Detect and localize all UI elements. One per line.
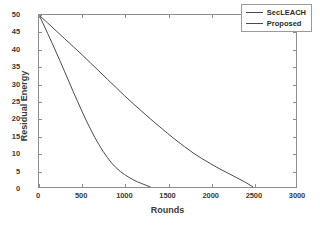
y-tick-mark bbox=[293, 172, 296, 173]
y-tick-label: 15 bbox=[0, 131, 20, 140]
y-tick-mark bbox=[39, 154, 42, 155]
y-tick-mark bbox=[293, 137, 296, 138]
x-tick-mark bbox=[169, 15, 170, 18]
x-tick-mark bbox=[169, 184, 170, 187]
y-tick-label: 50 bbox=[0, 10, 20, 19]
legend-label-proposed: Proposed bbox=[267, 19, 302, 28]
y-tick-mark bbox=[39, 102, 42, 103]
y-tick-label: 40 bbox=[0, 44, 20, 53]
y-tick-label: 5 bbox=[0, 166, 20, 175]
y-tick-mark bbox=[293, 102, 296, 103]
x-tick-label: 1000 bbox=[116, 191, 132, 200]
x-tick-mark bbox=[82, 184, 83, 187]
x-tick-mark bbox=[212, 184, 213, 187]
y-tick-label: 45 bbox=[0, 27, 20, 36]
x-axis-title: Rounds bbox=[38, 205, 297, 215]
y-tick-mark bbox=[293, 154, 296, 155]
legend-swatch-secleach bbox=[246, 12, 263, 13]
plot-area bbox=[38, 14, 297, 188]
x-tick-label: 2000 bbox=[203, 191, 219, 200]
chart-figure: 0510152025303540455005001000150020002500… bbox=[0, 0, 320, 229]
y-tick-label: 0 bbox=[0, 184, 20, 193]
x-tick-mark bbox=[212, 15, 213, 18]
y-tick-label: 30 bbox=[0, 79, 20, 88]
y-tick-label: 10 bbox=[0, 149, 20, 158]
plot-svg bbox=[39, 15, 296, 187]
series-line-proposed bbox=[39, 15, 253, 187]
y-tick-mark bbox=[293, 119, 296, 120]
x-tick-label: 2500 bbox=[246, 191, 262, 200]
x-tick-label: 3000 bbox=[289, 191, 305, 200]
series-line-secleach bbox=[39, 15, 150, 187]
y-tick-mark bbox=[293, 50, 296, 51]
y-tick-label: 20 bbox=[0, 114, 20, 123]
x-tick-mark bbox=[39, 15, 40, 18]
y-tick-mark bbox=[39, 119, 42, 120]
x-tick-label: 1500 bbox=[159, 191, 175, 200]
legend-label-secleach: SecLEACH bbox=[267, 8, 306, 17]
legend-item-proposed: Proposed bbox=[246, 19, 306, 28]
x-tick-label: 0 bbox=[36, 191, 40, 200]
x-tick-mark bbox=[82, 15, 83, 18]
y-tick-label: 35 bbox=[0, 62, 20, 71]
x-tick-label: 500 bbox=[75, 191, 87, 200]
y-tick-mark bbox=[293, 85, 296, 86]
y-tick-mark bbox=[293, 32, 296, 33]
y-tick-mark bbox=[39, 85, 42, 86]
y-tick-mark bbox=[39, 67, 42, 68]
chart-legend: SecLEACH Proposed bbox=[241, 4, 312, 32]
y-tick-label: 25 bbox=[0, 97, 20, 106]
y-tick-mark bbox=[39, 172, 42, 173]
legend-swatch-proposed bbox=[246, 23, 263, 24]
y-tick-mark bbox=[39, 50, 42, 51]
y-tick-mark bbox=[39, 32, 42, 33]
y-axis-title: Residual Energy bbox=[19, 36, 29, 176]
x-tick-mark bbox=[125, 184, 126, 187]
y-tick-mark bbox=[293, 67, 296, 68]
legend-item-secleach: SecLEACH bbox=[246, 8, 306, 17]
x-tick-mark bbox=[39, 184, 40, 187]
x-tick-mark bbox=[255, 184, 256, 187]
x-tick-mark bbox=[125, 15, 126, 18]
y-tick-mark bbox=[39, 137, 42, 138]
